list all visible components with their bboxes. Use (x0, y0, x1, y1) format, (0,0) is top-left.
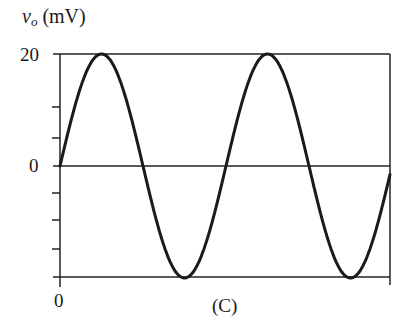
y-subscript: o (31, 14, 38, 29)
x-tick-label-0: 0 (54, 291, 64, 310)
y-unit: (mV) (42, 5, 85, 27)
y-symbol: v (22, 5, 31, 27)
y-axis-label: vo (mV) (22, 6, 86, 28)
waveform-plot (0, 0, 414, 327)
y-tick-label-0: 0 (29, 156, 39, 175)
y-ticks (52, 107, 60, 249)
figure-caption: (C) (212, 296, 237, 315)
y-tick-label-20: 20 (20, 45, 39, 64)
